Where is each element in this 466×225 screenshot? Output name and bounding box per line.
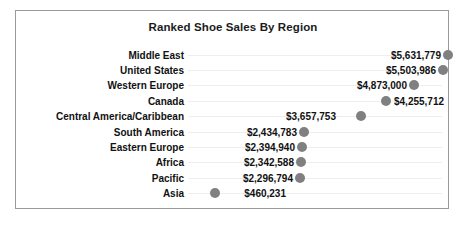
chart-row: Central America/Caribbean$3,657,753 — [16, 109, 448, 124]
category-label: Asia — [16, 188, 184, 199]
gridline — [188, 162, 442, 163]
value-label: $2,434,783 — [247, 126, 297, 137]
data-point-marker[interactable] — [381, 96, 391, 106]
category-label: Pacific — [16, 172, 184, 183]
data-point-marker[interactable] — [438, 65, 448, 75]
value-label: $460,231 — [244, 188, 286, 199]
chart-row: Africa$2,342,588 — [16, 155, 448, 170]
gridline — [188, 193, 442, 194]
data-point-marker[interactable] — [409, 80, 419, 90]
value-label: $4,255,712 — [394, 95, 444, 106]
category-label: Western Europe — [16, 80, 184, 91]
value-label: $5,503,986 — [386, 65, 436, 76]
data-point-marker[interactable] — [297, 142, 307, 152]
value-label: $2,296,794 — [243, 172, 293, 183]
chart-row: Asia$460,231 — [16, 186, 448, 201]
value-label: $4,873,000 — [357, 80, 407, 91]
category-label: Africa — [16, 157, 184, 168]
chart-row: South America$2,434,783 — [16, 124, 448, 139]
chart-row: Middle East$5,631,779 — [16, 47, 448, 62]
gridline — [188, 132, 442, 133]
screenshot-root: Ranked Shoe Sales By Region Middle East$… — [0, 0, 466, 225]
gridline — [188, 147, 442, 148]
data-point-marker[interactable] — [296, 157, 306, 167]
gridline — [188, 178, 442, 179]
chart-frame: Ranked Shoe Sales By Region Middle East$… — [15, 10, 449, 209]
chart-row: Western Europe$4,873,000 — [16, 78, 448, 93]
chart-row: Pacific$2,296,794 — [16, 170, 448, 185]
plot-area: Middle East$5,631,779United States$5,503… — [16, 45, 448, 207]
category-label: Eastern Europe — [16, 142, 184, 153]
category-label: Central America/Caribbean — [16, 111, 184, 122]
chart-title: Ranked Shoe Sales By Region — [16, 21, 450, 33]
chart-row: United States$5,503,986 — [16, 62, 448, 77]
chart-row: Eastern Europe$2,394,940 — [16, 139, 448, 154]
value-label: $2,342,588 — [244, 157, 294, 168]
value-label: $2,394,940 — [245, 142, 295, 153]
category-label: Middle East — [16, 49, 184, 60]
category-label: Canada — [16, 95, 184, 106]
category-label: United States — [16, 65, 184, 76]
value-label: $3,657,753 — [286, 111, 336, 122]
data-point-marker[interactable] — [443, 50, 453, 60]
category-label: South America — [16, 126, 184, 137]
value-label: $5,631,779 — [391, 49, 441, 60]
data-point-marker[interactable] — [295, 173, 305, 183]
data-point-marker[interactable] — [299, 127, 309, 137]
data-point-marker[interactable] — [356, 111, 366, 121]
chart-row: Canada$4,255,712 — [16, 93, 448, 108]
data-point-marker[interactable] — [210, 188, 220, 198]
